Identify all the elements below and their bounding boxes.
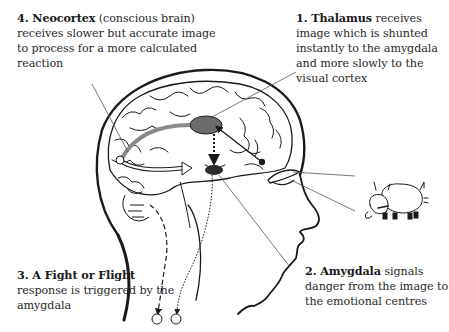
thalamus-shape (190, 116, 222, 134)
brain-cortex (108, 81, 292, 195)
bull-leg (414, 212, 418, 218)
brain-diagram-illustration (0, 0, 449, 332)
fight-flight-dashed-path (150, 205, 167, 312)
bull-leg (383, 213, 387, 219)
fight-flight-dotted-path (177, 175, 212, 312)
amygdala-shape (205, 165, 223, 175)
visual-cortex-node (116, 156, 124, 164)
bull-illustration (365, 182, 428, 219)
sight-lines (293, 172, 355, 211)
body-response-node-1 (152, 314, 162, 324)
bull-leg (408, 213, 412, 219)
bull-leg (393, 213, 397, 219)
body-response-node-2 (171, 314, 181, 324)
